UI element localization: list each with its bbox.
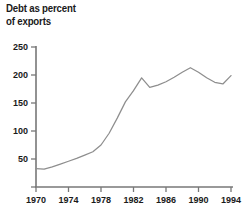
x-axis-tick-label: 1990 [188, 195, 208, 205]
y-axis-tick-label: 50 [18, 154, 28, 164]
x-axis-tick-labels: 1970197419781982198619901994 [26, 195, 241, 205]
x-axis-tick-label: 1970 [26, 195, 46, 205]
y-axis-tick-label: 200 [13, 70, 28, 80]
data-series-line [36, 68, 231, 169]
x-axis-tick-label: 1978 [91, 195, 111, 205]
chart-figure: Debt as percent of exports 5010015020025… [0, 0, 242, 213]
x-axis-tick-label: 1986 [156, 195, 176, 205]
y-axis-tick-label: 100 [13, 126, 28, 136]
y-axis-tick-label: 150 [13, 98, 28, 108]
x-axis-tick-label: 1982 [123, 195, 143, 205]
y-axis-tick-label: 250 [13, 42, 28, 52]
y-axis-tick-labels: 50100150200250 [13, 42, 28, 164]
x-axis-tick-label: 1974 [58, 195, 78, 205]
chart-plot-area: 50100150200250 1970197419781982198619901… [0, 0, 242, 213]
x-axis-tick-label: 1994 [221, 195, 241, 205]
